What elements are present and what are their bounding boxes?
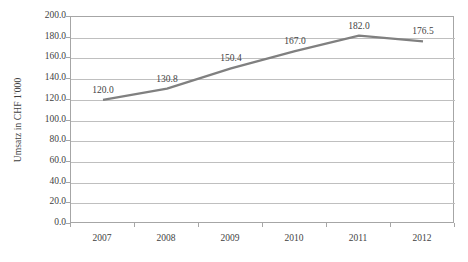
x-axis-tick-label: 2009: [221, 234, 240, 244]
x-axis-tick-label: 2007: [93, 234, 112, 244]
x-axis-tick-label: 2008: [157, 234, 176, 244]
line-chart: Umsatz in CHF 1'000 200.0180.0160.0140.0…: [0, 0, 468, 262]
x-axis-tick-label: 2011: [349, 234, 368, 244]
x-axis-tick-labels: 200720082009201020112012: [0, 0, 468, 262]
x-axis-tick-label: 2012: [413, 234, 432, 244]
x-axis-tick-label: 2010: [285, 234, 304, 244]
